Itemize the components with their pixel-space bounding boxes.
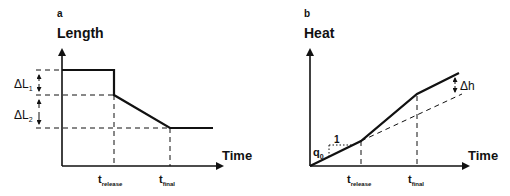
panel-b-guides <box>361 94 462 166</box>
t-release-label-a: trelease <box>98 173 123 187</box>
delta-l1-label: ΔL1 <box>14 77 33 92</box>
panel-a-guides <box>36 70 170 166</box>
delta-h-label: Δh <box>460 79 475 93</box>
q0-label: q0 <box>313 146 324 160</box>
t-final-label-b: tfinal <box>408 173 424 187</box>
delta-l2-label: ΔL2 <box>14 108 33 123</box>
panel-b-y-axis-label: Heat <box>304 25 335 41</box>
panel-b-x-axis-label: Time <box>468 148 498 163</box>
panel-a-length-curve <box>62 70 213 128</box>
t-final-label-a: tfinal <box>159 173 175 187</box>
panel-b-label: b <box>304 8 310 19</box>
panel-a-y-axis-label: Length <box>57 25 104 41</box>
t-release-label-b: trelease <box>347 173 372 187</box>
panel-b: b Heat Time Δh q0 1 trelease tfinal <box>304 8 498 187</box>
slope-run-label: 1 <box>334 134 340 145</box>
panel-a-x-axis-label: Time <box>222 148 252 163</box>
panel-a-label: a <box>57 8 63 19</box>
panel-a: a Length Time ΔL1 ΔL2 trelease tfinal <box>14 8 252 187</box>
diagram-canvas: a Length Time ΔL1 ΔL2 trelease tfinal b … <box>0 0 510 196</box>
panel-b-heat-curve <box>310 73 459 166</box>
